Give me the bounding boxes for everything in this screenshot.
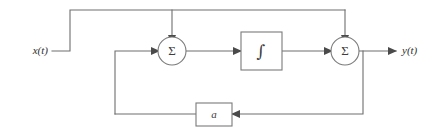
- block-diagram: Σ Σ ∫ a x(t) y(t): [0, 0, 435, 134]
- integrator-symbol: ∫: [257, 41, 266, 61]
- gain-block-label: a: [211, 108, 217, 120]
- summing-junction-two-symbol: Σ: [341, 43, 349, 58]
- diagram-canvas: Σ Σ ∫ a x(t) y(t): [0, 0, 435, 134]
- arrowhead-output: [388, 47, 397, 55]
- wire-gain-to-summer-one: [115, 51, 158, 114]
- output-signal-label: y(t): [401, 44, 418, 57]
- input-signal-label: x(t): [32, 44, 49, 57]
- summing-junction-one-symbol: Σ: [168, 43, 176, 58]
- wire-input-to-top-feedforward: [52, 10, 345, 51]
